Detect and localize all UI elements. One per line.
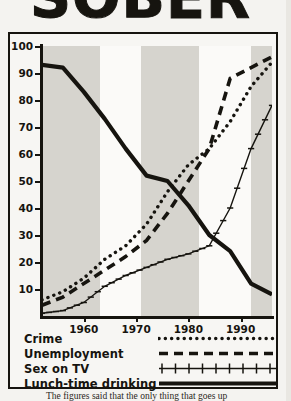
headline-fragment: SOBER	[0, 0, 291, 30]
legend-label: Unemployment	[24, 347, 124, 361]
page-edge	[286, 0, 291, 401]
y-tick	[35, 289, 41, 291]
y-tick-label-70: 70	[18, 121, 33, 133]
legend-label: Crime	[24, 332, 62, 346]
y-tick	[35, 100, 41, 102]
legend-swatch-solid	[158, 376, 278, 391]
y-tick	[35, 208, 41, 210]
legend-label: Lunch-time drinking	[24, 377, 157, 391]
chart-frame: 100908070605040302010 1960197019801990 C…	[8, 32, 278, 389]
y-tick-label-10: 10	[18, 283, 33, 295]
y-tick-label-50: 50	[18, 175, 33, 187]
y-tick-label-100: 100	[11, 40, 33, 52]
series-lines	[42, 46, 272, 316]
y-tick	[35, 127, 41, 129]
plot-wrapper: 100908070605040302010 1960197019801990	[42, 46, 272, 316]
caption-fragment: The figures said that the only thing tha…	[0, 391, 291, 401]
y-tick-label-20: 20	[18, 256, 33, 268]
x-tick	[241, 316, 243, 322]
chart-legend: CrimeUnemploymentSex on TVLunch-time dri…	[24, 331, 268, 391]
legend-swatch-cross	[158, 361, 278, 376]
y-tick	[35, 73, 41, 75]
series-lunch-time-drinking	[42, 65, 272, 295]
legend-label: Sex on TV	[24, 362, 89, 376]
y-tick	[35, 181, 41, 183]
x-tick	[136, 316, 138, 322]
x-tick	[84, 316, 86, 322]
legend-item-sex-on-tv: Sex on TV	[24, 361, 268, 376]
legend-item-crime: Crime	[24, 331, 268, 346]
y-tick-label-90: 90	[18, 67, 33, 79]
y-tick	[35, 262, 41, 264]
y-tick-label-60: 60	[18, 148, 33, 160]
y-tick-label-80: 80	[18, 94, 33, 106]
series-unemployment	[42, 57, 272, 305]
y-tick	[35, 46, 41, 48]
headline-text: SOBER	[30, 0, 251, 27]
x-axis-line	[40, 316, 274, 319]
y-tick-label-30: 30	[18, 229, 33, 241]
legend-item-unemployment: Unemployment	[24, 346, 268, 361]
figure-root: SOBER 100908070605040302010 196019701980…	[0, 0, 291, 401]
y-tick	[35, 154, 41, 156]
legend-item-lunch-time-drinking: Lunch-time drinking	[24, 376, 268, 391]
legend-swatch-dotted	[158, 331, 278, 346]
x-tick	[188, 316, 190, 322]
y-tick-label-40: 40	[18, 202, 33, 214]
legend-swatch-dashed	[158, 346, 278, 361]
y-tick	[35, 235, 41, 237]
plot-area	[42, 46, 272, 316]
caption-text: The figures said that the only thing tha…	[46, 391, 227, 401]
